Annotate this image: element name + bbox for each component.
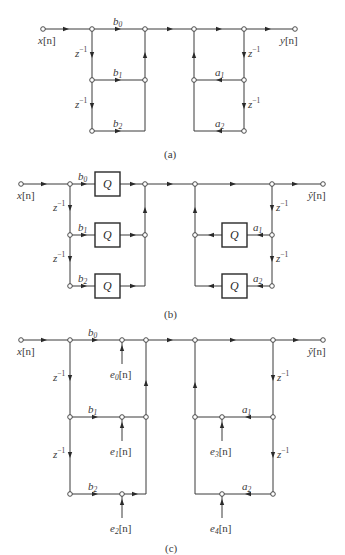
coeff-b0: b0 [113,15,123,29]
coeff-a1: a1 [215,66,224,80]
delay-label: z−1 [52,250,66,264]
delay-label: z−1 [52,369,66,383]
delay-label: z−1 [52,199,66,213]
svg-text:Q: Q [103,177,112,191]
noise-e4: e4[n] [210,522,231,536]
coeff-b0: b0 [78,170,88,184]
delay-label: z−1 [247,96,261,110]
quantizer-icon: Q [222,274,247,298]
signal-flow-figure: x[n] y[n] b0 b1 b2 a1 a2 z−1 z−1 z−1 z−1… [0,0,345,555]
svg-text:Q: Q [103,279,112,293]
delay-label: z−1 [52,446,66,460]
noise-e2: e2[n] [110,522,131,536]
coeff-b2: b2 [88,480,98,494]
noise-e3: e3[n] [210,445,231,459]
caption-b: (b) [164,308,177,321]
quantizer-icon: Q [222,223,247,247]
panel-c: x[n] ŷ[n] b0 b1 b2 a1 a2 z−1 z−1 z−1 z−1… [16,326,326,555]
caption-a: (a) [164,148,177,161]
panel-a: x[n] y[n] b0 b1 b2 a1 a2 z−1 z−1 z−1 z−1… [37,15,298,161]
output-label: ŷ[n] [307,345,326,357]
quantizer-icon: Q [95,223,120,247]
output-label: y[n] [279,34,298,46]
coeff-a1: a1 [253,221,262,235]
output-label: ŷ[n] [307,189,326,201]
coeff-b0: b0 [88,326,98,340]
delay-label: z−1 [275,199,289,213]
svg-text:Q: Q [230,228,239,242]
svg-text:Q: Q [103,228,112,242]
coeff-a2: a2 [242,480,252,494]
input-label: x[n] [16,345,35,357]
coeff-b1: b1 [113,66,122,80]
node-icons [19,338,326,497]
delay-label: z−1 [276,369,290,383]
noise-e0: e0[n] [110,368,131,382]
svg-text:Q: Q [230,279,239,293]
coeff-a2: a2 [253,272,263,286]
quantizer-icon: Q [95,172,120,196]
node-icons [41,27,298,134]
arrow-icon [41,338,299,505]
delay-label: z−1 [74,45,88,59]
quantizer-icon: Q [95,274,120,298]
delay-label: z−1 [276,446,290,460]
input-label: x[n] [16,189,35,201]
coeff-b1: b1 [78,221,87,235]
coeff-b2: b2 [113,117,123,131]
noise-e1: e1[n] [110,445,131,459]
caption-c: (c) [165,542,178,555]
delay-label: z−1 [247,45,261,59]
coeff-b1: b1 [88,403,97,417]
delay-label: z−1 [275,250,289,264]
coeff-a1: a1 [242,403,251,417]
panel-b: Q Q Q Q Q [16,170,326,321]
delay-label: z−1 [74,96,88,110]
input-label: x[n] [37,34,56,46]
node-icons [19,182,326,289]
coeff-a2: a2 [215,117,225,131]
coeff-b2: b2 [78,272,88,286]
